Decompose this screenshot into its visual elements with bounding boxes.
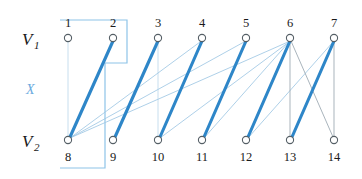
node-13[interactable] xyxy=(286,136,293,143)
edge-7-12 xyxy=(248,42,333,138)
node-label-1: 1 xyxy=(65,16,71,30)
figure-root: V 1 X V 2 1 2 3 4 5 6 7 xyxy=(0,0,362,179)
top-row-labels: 1 2 3 4 5 6 7 xyxy=(65,16,337,30)
set-x-label: X xyxy=(25,82,35,97)
bottom-row-labels: 8 9 10 11 12 13 14 xyxy=(65,150,341,164)
node-label-9: 9 xyxy=(110,150,116,164)
node-2[interactable] xyxy=(109,34,116,41)
matching-edge-7-13 xyxy=(292,41,334,137)
bipartite-graph-canvas: V 1 X V 2 1 2 3 4 5 6 7 xyxy=(0,0,362,179)
matching-edge-3-9 xyxy=(115,41,158,137)
node-9[interactable] xyxy=(109,136,116,143)
node-11[interactable] xyxy=(198,136,205,143)
node-label-11: 11 xyxy=(196,150,208,164)
node-label-6: 6 xyxy=(287,16,293,30)
matching-edge-5-11 xyxy=(204,41,246,137)
node-10[interactable] xyxy=(154,136,161,143)
set-x-outline xyxy=(60,20,127,168)
row-label-v2-subscript: 2 xyxy=(34,141,40,153)
edge-5-8 xyxy=(70,42,244,138)
node-7[interactable] xyxy=(330,34,337,41)
matching-edge-group xyxy=(70,41,334,137)
node-label-8: 8 xyxy=(65,150,71,164)
node-label-12: 12 xyxy=(240,150,253,164)
node-12[interactable] xyxy=(242,136,249,143)
node-8[interactable] xyxy=(64,136,71,143)
node-label-13: 13 xyxy=(284,150,297,164)
top-row-nodes xyxy=(64,34,337,41)
node-3[interactable] xyxy=(154,34,161,41)
node-label-5: 5 xyxy=(243,16,249,30)
row-label-v1-subscript: 1 xyxy=(34,39,40,51)
matching-edge-6-12 xyxy=(248,41,290,137)
edge-6-11 xyxy=(204,42,289,138)
node-label-10: 10 xyxy=(152,150,165,164)
node-label-14: 14 xyxy=(328,150,341,164)
node-14[interactable] xyxy=(330,136,337,143)
node-1[interactable] xyxy=(64,34,71,41)
node-4[interactable] xyxy=(198,34,205,41)
node-5[interactable] xyxy=(242,34,249,41)
node-label-2: 2 xyxy=(110,16,116,30)
node-label-7: 7 xyxy=(331,16,337,30)
node-label-4: 4 xyxy=(199,16,206,30)
node-6[interactable] xyxy=(286,34,293,41)
node-label-3: 3 xyxy=(155,16,161,30)
